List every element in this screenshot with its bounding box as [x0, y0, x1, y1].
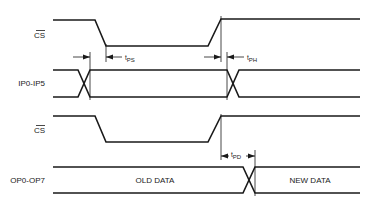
cs-waveform-top: [53, 19, 360, 46]
cs-waveform-bottom: [53, 116, 360, 142]
tph-label: tPH: [247, 54, 257, 63]
tps-label: tPS: [125, 54, 135, 63]
tph-arrow-left-head: [214, 55, 221, 60]
ip-waveform-upper: [53, 70, 360, 97]
tpd-arrow-left-head: [221, 154, 228, 159]
tph-arrow-right-head: [227, 55, 234, 60]
old-data-label: OLD DATA: [136, 176, 175, 185]
tps-arrow-left-head: [83, 55, 90, 60]
tps-arrow-right-head: [106, 55, 113, 60]
ip-waveform-lower: [53, 70, 360, 97]
cs-label-top: CS: [34, 31, 45, 40]
timing-diagram: CS IP0-IP5 CS OP0-OP7 tPS tPH tPD OLD DA…: [0, 0, 376, 207]
op-label: OP0-OP7: [10, 176, 45, 185]
new-data-label: NEW DATA: [289, 176, 331, 185]
tpd-arrow-right-head: [248, 154, 255, 159]
ip-label: IP0-IP5: [18, 79, 45, 88]
cs-label-bottom: CS: [34, 126, 45, 135]
